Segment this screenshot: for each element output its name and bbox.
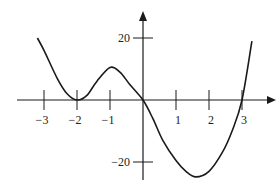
x-tick-label: 3 <box>241 113 247 127</box>
x-tick-label: −1 <box>102 113 115 127</box>
y-tick-label: 20 <box>118 31 130 45</box>
x-axis-arrow-icon <box>267 96 276 104</box>
x-tick-label: 2 <box>208 113 214 127</box>
y-axis-arrow-icon <box>139 11 147 21</box>
x-tick-label: −3 <box>36 113 49 127</box>
y-tick-label: −20 <box>111 155 130 169</box>
x-tick-label: −2 <box>69 113 82 127</box>
x-tick-label: 1 <box>175 113 181 127</box>
x-ticks: −3−2−1123 <box>36 90 247 127</box>
chart: −3−2−1123 20−20 <box>0 0 280 193</box>
function-curve <box>37 38 252 177</box>
